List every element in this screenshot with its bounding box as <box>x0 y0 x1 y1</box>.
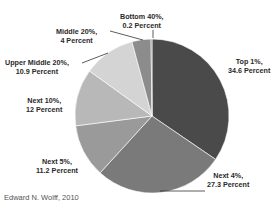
label-value: 4 Percent <box>56 36 97 45</box>
label-next-4: Next 4%, 27.3 Percent <box>207 171 249 189</box>
label-value: 34.6 Percent <box>228 66 270 75</box>
label-value: 27.3 Percent <box>207 180 249 189</box>
label-value: 0.2 Percent <box>120 21 164 30</box>
label-group: Top 1%, <box>228 57 270 66</box>
source-citation: Edward N. Wolff, 2010 <box>4 193 79 202</box>
leader-line <box>110 31 143 40</box>
label-group: Next 4%, <box>207 171 249 180</box>
label-top-1: Top 1%, 34.6 Percent <box>228 57 270 75</box>
label-next-5: Next 5%, 11.2 Percent <box>36 157 78 175</box>
pie-chart: Top 1%, 34.6 Percent Next 4%, 27.3 Perce… <box>0 0 278 212</box>
label-group: Upper Middle 20%, <box>5 58 69 67</box>
label-group: Next 5%, <box>36 157 78 166</box>
label-group: Middle 20%, <box>56 27 97 36</box>
label-middle-20: Middle 20%, 4 Percent <box>56 27 97 45</box>
label-value: 10.9 Percent <box>5 67 69 76</box>
label-group: Bottom 40%, <box>120 12 164 21</box>
label-value: 11.2 Percent <box>36 166 78 175</box>
label-group: Next 10%, <box>26 96 62 105</box>
label-upper-middle-20: Upper Middle 20%, 10.9 Percent <box>5 58 69 76</box>
label-bottom-40: Bottom 40%, 0.2 Percent <box>120 12 164 30</box>
label-value: 12 Percent <box>26 105 62 114</box>
label-next-10: Next 10%, 12 Percent <box>26 96 62 114</box>
